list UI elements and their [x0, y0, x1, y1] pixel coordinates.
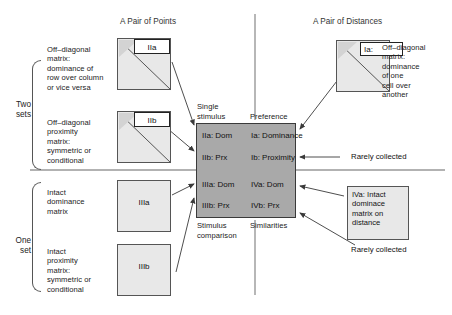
note-rarely-collected-top: Rarely collected: [351, 152, 406, 161]
axis-label-stimulus-comparison: Stimulus comparison: [197, 221, 249, 240]
arrow-IIIa-to-quadrant: [172, 184, 194, 195]
arrow-IIa-to-quadrant: [172, 62, 194, 125]
quadrant-top-left-line-0: IIa: Dom: [202, 131, 232, 140]
note-rarely-collected-bottom: Rarely collected: [351, 245, 406, 254]
quadrant-top-left-line-1: IIb: Prx: [202, 153, 227, 162]
quadrant-top-right-line-1: Ib: Proximity: [251, 153, 295, 162]
arrow-IVa-annotation: [300, 186, 344, 196]
figure-canvas: A Pair of Points A Pair of Distances Two…: [0, 0, 452, 315]
quadrant-bottom-left-line-0: IIIa: Dom: [202, 180, 234, 189]
row-group-label-one-set: One set: [5, 236, 31, 255]
axis-label-single-stimulus: Single stimulus: [197, 102, 247, 121]
left-item-0-description: Off–diagonal matrix: dominance of row ov…: [47, 45, 117, 92]
right-matrix-Ia-description: Off–diagonal matrix: dominance of one ce…: [382, 43, 448, 99]
brace-one-set: [32, 182, 41, 292]
left-item-3-description: Intact proximity matrix: symmetric or co…: [47, 247, 117, 294]
quadrant-bottom-right-line-0: IVa: Dom: [251, 180, 284, 189]
left-item-2-description: Intact dominance matrix: [47, 188, 117, 216]
left-item-3-matrix-label: IIIb: [117, 262, 171, 271]
quadrant-top-right-line-0: Ia: Dominance: [251, 131, 303, 140]
column-header-left: A Pair of Points: [120, 17, 176, 26]
quadrant-bottom-left-line-1: IIIb: Prx: [202, 201, 230, 210]
right-matrix-Ia-label: Ia:: [364, 45, 373, 54]
quadrant-bottom-right-line-1: IVb: Prx: [251, 201, 279, 210]
right-annotation-IVa: IVa: Intact dominace matrix on distance: [347, 186, 409, 240]
arrow-IIIb-to-quadrant: [176, 198, 194, 272]
left-item-1-description: Off–diagonal proximity matrix: symmetric…: [47, 118, 117, 165]
left-item-0-matrix-label: IIa: [134, 39, 170, 54]
axis-label-preference: Preference: [250, 112, 310, 121]
axis-label-similarities: Similarities: [250, 221, 310, 230]
column-header-right: A Pair of Distances: [313, 17, 382, 26]
left-item-2-matrix-label: IIIa: [117, 198, 171, 207]
row-group-label-two-sets: Two sets: [5, 100, 31, 119]
brace-two-sets: [32, 60, 41, 170]
left-item-1-matrix-label: IIb: [134, 112, 170, 127]
